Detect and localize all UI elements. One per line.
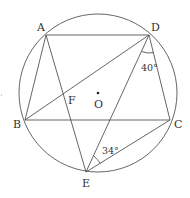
label-f: F [68, 94, 76, 107]
segment-bd [25, 35, 149, 120]
label-a: A [36, 21, 46, 34]
angle-arc-e [94, 156, 101, 164]
center-dot [97, 92, 100, 95]
label-b: B [13, 118, 21, 131]
segment-ce [86, 120, 170, 172]
angle-arc-d [142, 52, 155, 54]
geometry-figure: A D B C E F O 40° 34° [0, 0, 190, 198]
stray-dot [1, 94, 2, 95]
segment-dc [149, 35, 170, 120]
angle-label-d: 40° [141, 62, 158, 73]
label-e: E [82, 177, 90, 190]
segment-ae [46, 35, 86, 172]
label-c: C [174, 118, 182, 131]
angle-label-e: 34° [102, 145, 119, 156]
label-d: D [151, 21, 160, 34]
label-o: O [94, 98, 103, 111]
